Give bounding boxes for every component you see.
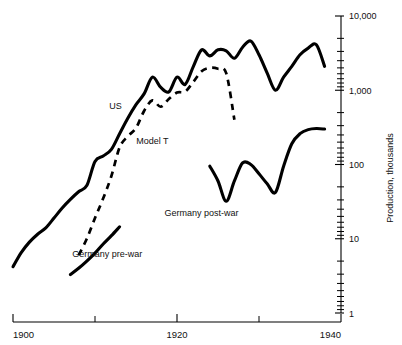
x-tick-label-1920: 1920: [166, 329, 187, 340]
series-label-model-t: Model T: [136, 136, 169, 146]
x-tick-label-1900: 1900: [13, 329, 34, 340]
y-tick-label-1: 1: [349, 309, 354, 319]
series-label-germany-pre-war: Germany pre-war: [72, 249, 142, 259]
y-tick-label-1000: 1,000: [349, 86, 372, 96]
series-label-us: US: [109, 101, 122, 111]
production-log-chart: 1900 1920 1940: [0, 0, 402, 345]
series-line-model-t: [79, 68, 235, 255]
series-annotations: US Model T Germany pre-war Germany post-…: [72, 101, 238, 260]
series-line-us: [13, 41, 325, 267]
y-axis: 10,000 1,000 100 10 1 Production, thousa…: [335, 11, 395, 319]
y-axis-title: Production, thousands: [385, 133, 395, 223]
series-line-germany-post-war: [210, 129, 325, 202]
x-axis: 1900 1920 1940: [13, 314, 341, 340]
chart-root: 1900 1920 1940: [0, 0, 402, 345]
y-tick-label-100: 100: [349, 160, 364, 170]
series-label-germany-post-war: Germany post-war: [165, 208, 239, 218]
x-tick-label-1940: 1940: [320, 329, 341, 340]
y-tick-label-10000: 10,000: [349, 11, 377, 21]
y-tick-label-10: 10: [349, 234, 359, 244]
series-group: [13, 41, 325, 275]
